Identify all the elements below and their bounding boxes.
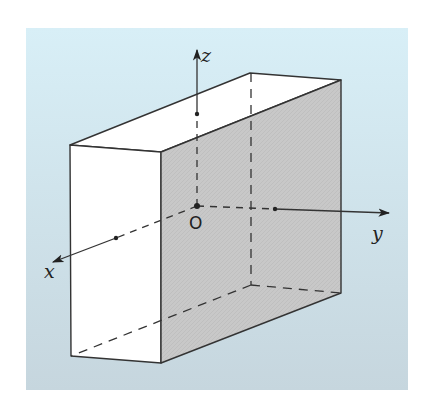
y-axis-point — [273, 207, 277, 211]
y-axis-label: y — [371, 222, 383, 244]
z-axis-point — [195, 112, 199, 116]
z-axis-label: z — [200, 44, 212, 66]
box-front-face — [70, 145, 161, 363]
coordinate-box-diagram: z y x O — [0, 0, 432, 419]
origin-label: O — [189, 213, 202, 233]
x-axis-label: x — [44, 260, 55, 282]
x-axis-point — [114, 236, 118, 240]
origin-point — [194, 203, 200, 209]
